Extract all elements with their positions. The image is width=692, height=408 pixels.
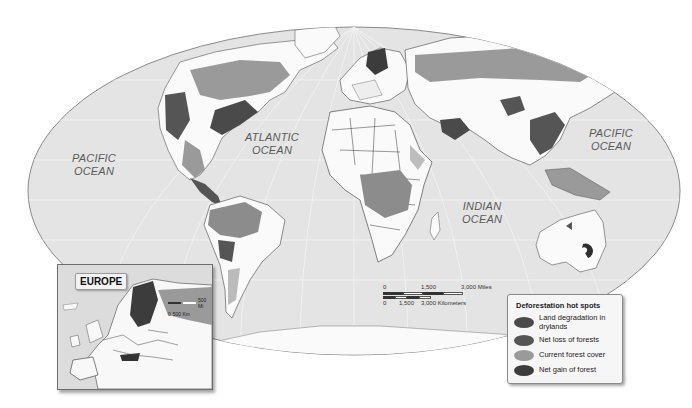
ocean-label-line1: INDIAN (462, 200, 502, 213)
ocean-label-line2: OCEAN (589, 140, 633, 153)
scale-miles-zero: 0 (383, 284, 386, 290)
legend-label: Net loss of forests (539, 336, 619, 345)
inset-scale-zero: 0 (168, 311, 171, 317)
legend-title: Deforestation hot spots (516, 301, 600, 310)
ocean-label-line1: ATLANTIC (245, 131, 299, 144)
inset-scale-segment (183, 302, 196, 304)
ocean-label-line1: PACIFIC (72, 152, 116, 165)
scale-segment (395, 296, 407, 299)
legend-item-net-loss: Net loss of forests (514, 335, 619, 346)
legend: Deforestation hot spots Land degradation… (507, 294, 623, 384)
scale-km-end: 3,000 Kilometers (421, 300, 466, 306)
scale-km-zero: 0 (383, 300, 386, 306)
legend-swatch-icon (514, 317, 534, 328)
europe-inset-map: EUROPE 500 Mi 0 500 Km (57, 264, 213, 390)
legend-label: Current forest cover (539, 351, 619, 360)
scale-segment (407, 296, 419, 299)
world-deforestation-map: PACIFIC OCEAN ATLANTIC OCEAN INDIAN OCEA… (0, 0, 692, 408)
legend-swatch-icon (514, 350, 534, 361)
ocean-label-indian: INDIAN OCEAN (462, 200, 502, 226)
scale-segment (403, 292, 423, 295)
scale-segment (383, 296, 395, 299)
legend-item-current-forest: Current forest cover (514, 350, 619, 361)
ocean-label-pacific-west: PACIFIC OCEAN (72, 152, 116, 178)
ocean-label-line2: OCEAN (462, 213, 502, 226)
ocean-label-line2: OCEAN (72, 165, 116, 178)
inset-title: EUROPE (75, 273, 127, 290)
ocean-label-line2: OCEAN (245, 144, 299, 157)
scale-segment (443, 292, 463, 295)
inset-scale: 500 Mi 0 500 Km (168, 297, 212, 317)
legend-label: Net gain of forest (539, 366, 619, 375)
legend-swatch-icon (514, 335, 534, 346)
scale-segment (423, 292, 443, 295)
ocean-label-atlantic: ATLANTIC OCEAN (245, 131, 299, 157)
legend-swatch-icon (514, 365, 534, 376)
scale-segment (383, 292, 403, 295)
ocean-label-pacific-east: PACIFIC OCEAN (589, 127, 633, 153)
inset-scale-miles: 500 Mi (198, 297, 212, 309)
scale-km-mid: 1,500 (399, 300, 414, 306)
scale-miles-mid: 1,500 (421, 284, 436, 290)
inset-scale-segment (168, 302, 181, 304)
scale-miles-end: 3,000 Miles (461, 284, 492, 290)
scale-bar: 0 1,500 3,000 Miles 0 1,500 3,000 Kilome… (383, 284, 513, 316)
legend-item-net-gain: Net gain of forest (514, 365, 619, 376)
legend-label: Land degradation in drylands (539, 314, 619, 331)
inset-scale-km: 500 Km (173, 311, 190, 317)
ocean-label-line1: PACIFIC (589, 127, 633, 140)
legend-item-land-degradation: Land degradation in drylands (514, 314, 619, 331)
scale-segment (419, 296, 431, 299)
